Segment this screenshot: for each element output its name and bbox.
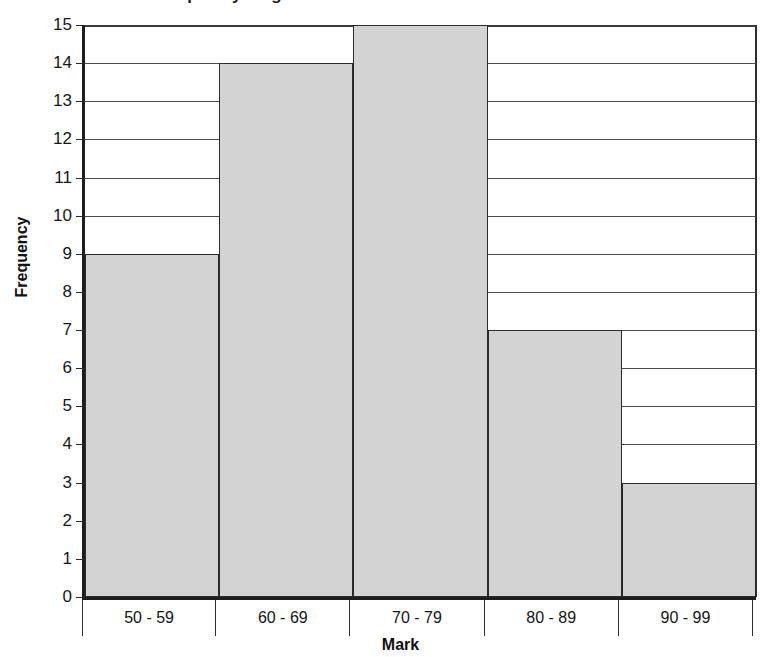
y-tick-label-10: 10 <box>53 206 72 226</box>
x-axis-label-2: 70 - 79 <box>350 600 484 636</box>
y-tick-label-12: 12 <box>53 129 72 149</box>
y-tick-label-2: 2 <box>63 511 72 531</box>
x-axis-label-0: 50 - 59 <box>82 600 216 636</box>
y-tick-label-6: 6 <box>63 358 72 378</box>
y-tick-8 <box>76 292 85 293</box>
bar-60-69 <box>219 63 353 597</box>
y-tick-label-13: 13 <box>53 91 72 111</box>
y-tick-label-0: 0 <box>63 587 72 607</box>
bar-80-89 <box>488 330 622 597</box>
x-axis-label-3: 80 - 89 <box>485 600 619 636</box>
y-tick-6 <box>76 368 85 369</box>
y-tick-15 <box>76 25 85 26</box>
chart-title: A frequency diagram to show the results … <box>0 0 744 5</box>
y-tick-10 <box>76 216 85 217</box>
x-axis-title: Mark <box>82 636 719 654</box>
y-tick-9 <box>76 254 85 255</box>
y-tick-label-8: 8 <box>63 282 72 302</box>
y-tick-5 <box>76 406 85 407</box>
y-tick-11 <box>76 178 85 179</box>
y-tick-label-4: 4 <box>63 434 72 454</box>
y-tick-label-3: 3 <box>63 473 72 493</box>
y-tick-1 <box>76 559 85 560</box>
y-tick-3 <box>76 483 85 484</box>
y-tick-0 <box>76 597 85 598</box>
y-tick-2 <box>76 521 85 522</box>
bar-70-79 <box>353 25 487 597</box>
y-tick-label-11: 11 <box>54 168 72 188</box>
y-tick-12 <box>76 139 85 140</box>
bar-90-99 <box>622 483 756 597</box>
y-tick-label-15: 15 <box>53 15 72 35</box>
x-axis-label-1: 60 - 69 <box>216 600 350 636</box>
y-tick-label-5: 5 <box>63 396 72 416</box>
y-axis-title: Frequency <box>13 202 31 312</box>
plot-area: 1514131211109876543210 <box>82 25 756 600</box>
x-axis-category-band: 50 - 5960 - 6970 - 7980 - 8990 - 99 <box>82 600 755 636</box>
y-tick-label-9: 9 <box>63 244 72 264</box>
y-tick-label-1: 1 <box>63 549 72 569</box>
y-tick-label-14: 14 <box>53 53 72 73</box>
y-tick-13 <box>76 101 85 102</box>
bar-50-59 <box>85 254 219 597</box>
y-tick-label-7: 7 <box>63 320 72 340</box>
y-tick-4 <box>76 444 85 445</box>
frequency-diagram-chart: A frequency diagram to show the results … <box>0 0 760 657</box>
y-tick-7 <box>76 330 85 331</box>
y-tick-14 <box>76 63 85 64</box>
x-axis-label-4: 90 - 99 <box>619 600 753 636</box>
